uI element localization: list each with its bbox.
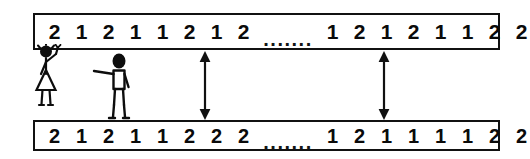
bottom-cell: 1 [400, 126, 427, 146]
bottom-cell: 2 [203, 126, 230, 146]
bottom-cell: 2 [95, 126, 122, 146]
bottom-cell: 2 [176, 126, 203, 146]
top-cell: 1 [427, 21, 454, 42]
bottom-cell: 1 [319, 126, 346, 146]
top-cell: 1 [122, 21, 149, 42]
bottom-cell: 1 [68, 126, 95, 146]
bottom-sequence-cells: 2 1 2 1 1 2 2 2 ....... 1 2 1 1 1 1 2 2 [35, 122, 498, 149]
top-cell: 1 [149, 21, 176, 42]
person-with-skirt-figure [34, 44, 74, 110]
top-cell: 2 [346, 21, 373, 42]
bottom-sequence-ellipsis: ....... [257, 132, 319, 152]
bottom-cell: 2 [508, 126, 530, 146]
bottom-cell: 1 [149, 126, 176, 146]
top-cell: 2 [41, 21, 68, 42]
top-cell: 2 [176, 21, 203, 42]
stick-figure-pointing-icon [90, 53, 136, 123]
top-cell: 1 [203, 21, 230, 42]
bottom-cell: 1 [427, 126, 454, 146]
bottom-cell: 2 [481, 126, 508, 146]
top-cell: 1 [373, 21, 400, 42]
double-headed-arrow-icon [373, 51, 395, 120]
top-cell: 2 [481, 21, 508, 42]
top-cell: 1 [68, 21, 95, 42]
bottom-cell: 1 [373, 126, 400, 146]
top-sequence-box: 2 1 2 1 1 2 1 2 ....... 1 2 1 2 1 1 2 2 [33, 13, 500, 50]
bottom-cell: 2 [41, 126, 68, 146]
person-with-trousers-figure [90, 53, 136, 123]
top-cell: 2 [400, 21, 427, 42]
bottom-cell: 2 [346, 126, 373, 146]
top-cell: 2 [95, 21, 122, 42]
difference-marker-2-arrow [373, 51, 395, 123]
top-cell: 2 [508, 21, 530, 42]
bottom-cell: 2 [230, 126, 257, 146]
double-headed-arrow-icon [194, 51, 216, 120]
top-cell: 1 [319, 21, 346, 42]
stick-figure-skirt-icon [34, 44, 74, 110]
bottom-cell: 1 [122, 126, 149, 146]
top-sequence-ellipsis: ....... [257, 29, 319, 49]
top-sequence-cells: 2 1 2 1 1 2 1 2 ....... 1 2 1 2 1 1 2 2 [35, 15, 498, 48]
top-cell: 2 [230, 21, 257, 42]
bottom-cell: 1 [454, 126, 481, 146]
difference-marker-1-arrow [194, 51, 216, 123]
top-cell: 1 [454, 21, 481, 42]
bottom-sequence-box: 2 1 2 1 1 2 2 2 ....... 1 2 1 1 1 1 2 2 [33, 120, 500, 151]
sequence-comparison-diagram: 2 1 2 1 1 2 1 2 ....... 1 2 1 2 1 1 2 2 … [0, 0, 530, 159]
